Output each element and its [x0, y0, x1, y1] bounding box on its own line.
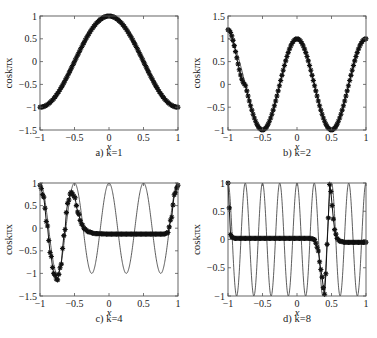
subplot-d: −1−0.500.51−1−0.500.51xcoskπxd) k=8: [190, 178, 369, 326]
y-tick-label: −1: [214, 125, 225, 136]
y-axis-label: coskπx: [2, 57, 14, 89]
y-axis-label: coskπx: [2, 223, 14, 255]
x-tick-label: −0.5: [65, 132, 83, 143]
y-tick-label: 1: [32, 11, 37, 22]
y-tick-label: −1.5: [19, 291, 37, 302]
y-tick-label: 1: [32, 178, 37, 189]
y-tick-label: −1: [26, 102, 37, 113]
x-tick-label: 1: [176, 132, 181, 143]
y-tick-label: 0: [220, 79, 225, 90]
subplot-a: −1−0.500.51−1.5−1−0.500.51xcoskπxa) k=1: [2, 11, 181, 160]
axes-box: [228, 16, 366, 130]
y-tick-label: −1: [26, 268, 37, 279]
exact-curve: [40, 183, 178, 273]
y-tick-label: 0: [32, 56, 37, 67]
x-tick-label: −0.5: [253, 132, 271, 143]
approximation-markers: [225, 27, 368, 132]
approximation-markers: [37, 13, 180, 109]
y-axis-label: coskπx: [190, 57, 202, 89]
x-tick-label: −0.5: [253, 298, 271, 309]
y-tick-label: 1.5: [213, 11, 226, 22]
x-tick-label: 0.5: [325, 298, 338, 309]
x-tick-label: 1: [364, 132, 369, 143]
x-tick-label: 1: [176, 298, 181, 309]
subplot-caption: a) k=1: [95, 147, 122, 159]
y-tick-label: −0.5: [207, 262, 225, 273]
y-tick-label: 0: [32, 223, 37, 234]
y-tick-label: −0.5: [19, 79, 37, 90]
y-tick-label: −1.5: [19, 125, 37, 136]
subplot-c: −1−0.500.51−1.5−1−0.500.51xcoskπxc) k=4: [2, 178, 181, 326]
y-tick-label: 1: [220, 178, 225, 189]
approximation-markers: [225, 180, 368, 297]
y-tick-label: 0.5: [213, 206, 226, 217]
subplot-caption: c) k=4: [95, 313, 123, 325]
y-axis-label: coskπx: [190, 223, 202, 255]
exact-curve: [40, 16, 178, 107]
y-tick-label: −1: [214, 291, 225, 302]
y-tick-label: 0: [220, 234, 225, 245]
axes-box: [40, 183, 178, 296]
approximation-markers: [37, 183, 180, 283]
exact-curve: [228, 39, 366, 130]
x-tick-label: 0.5: [137, 132, 150, 143]
x-tick-label: 1: [364, 298, 369, 309]
y-tick-label: −0.5: [207, 102, 225, 113]
y-tick-label: 0.5: [25, 33, 38, 44]
x-tick-label: 0.5: [325, 132, 338, 143]
subplot-b: −1−0.500.51−1−0.500.511.5xcoskπxb) k=2: [190, 11, 369, 160]
y-tick-label: 0.5: [25, 200, 38, 211]
subplot-caption: b) k=2: [283, 147, 311, 159]
figure: −1−0.500.51−1.5−1−0.500.51xcoskπxa) k=1 …: [0, 0, 377, 338]
x-tick-label: −0.5: [65, 298, 83, 309]
y-tick-label: −0.5: [19, 245, 37, 256]
y-tick-label: 1: [220, 33, 225, 44]
x-tick-label: 0.5: [137, 298, 150, 309]
subplot-caption: d) k=8: [283, 313, 311, 325]
y-tick-label: 0.5: [213, 56, 226, 67]
axes-box: [40, 16, 178, 130]
